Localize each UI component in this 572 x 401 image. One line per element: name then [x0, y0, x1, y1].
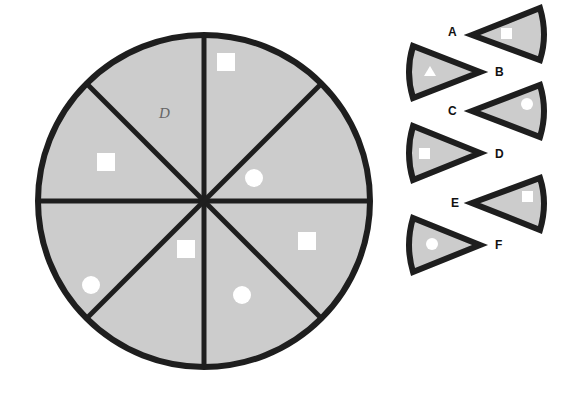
- segment-5-circle-icon: [82, 276, 100, 294]
- option-f-label: F: [495, 238, 502, 252]
- segment-6-square-icon: [97, 153, 115, 171]
- option-c-label: C: [448, 104, 457, 118]
- option-e[interactable]: [472, 178, 544, 230]
- wheel-dividers: [38, 35, 370, 367]
- option-a-label: A: [448, 25, 457, 39]
- segment-1-circle-icon: [245, 169, 263, 187]
- segment-4-square-icon: [177, 240, 195, 258]
- option-d[interactable]: [409, 126, 480, 180]
- option-f[interactable]: [409, 218, 480, 272]
- wheel: D: [38, 35, 370, 367]
- option-c[interactable]: [472, 85, 544, 137]
- option-e-square-icon: [522, 191, 533, 202]
- option-b-label: B: [495, 65, 504, 79]
- option-a-square-icon: [501, 28, 512, 39]
- option-f-circle-icon: [426, 238, 438, 250]
- option-a[interactable]: [472, 8, 544, 60]
- pencil-mark: D: [158, 105, 170, 121]
- option-d-square-icon: [419, 148, 430, 159]
- puzzle-diagram: D: [0, 0, 572, 401]
- option-b[interactable]: [409, 46, 480, 98]
- segment-2-square-icon: [298, 232, 316, 250]
- option-c-circle-icon: [521, 98, 533, 110]
- option-e-label: E: [451, 196, 459, 210]
- segment-3-circle-icon: [233, 286, 251, 304]
- option-d-label: D: [495, 147, 504, 161]
- segment-0-square-icon: [217, 53, 235, 71]
